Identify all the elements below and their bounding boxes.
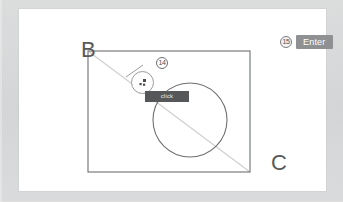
step-badge-14: 14: [156, 57, 168, 69]
action-tooltip: click: [145, 91, 189, 102]
screenshot-root: B C click 14 15 Enter: [0, 0, 343, 202]
vertex-label-c: C: [271, 152, 287, 174]
document-card: B C click 14 15 Enter: [19, 9, 326, 191]
vertex-label-b: B: [81, 39, 96, 61]
pointer-icon: [138, 78, 149, 89]
step-badge-15: 15: [280, 36, 292, 48]
key-hint-enter[interactable]: Enter: [296, 35, 333, 49]
